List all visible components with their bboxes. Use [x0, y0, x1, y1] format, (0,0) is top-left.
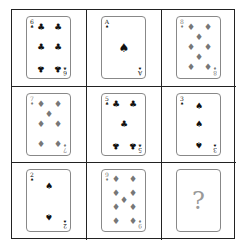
card-index-bottom: A♠ — [137, 66, 143, 76]
diamond-icon: ♦ — [137, 219, 143, 223]
diamond-icon: ♦ — [111, 217, 121, 227]
diamond-icon: ♦ — [194, 53, 204, 63]
card-index-bottom: 6♣ — [62, 66, 68, 76]
card-index-top: 9♦ — [104, 172, 110, 182]
card-index-top: 2♠ — [29, 172, 35, 182]
card-9-of-diamonds[interactable]: 9♦ ♦ ♦ ♦ ♦ ♦ ♦ ♦ ♦ ♦ 9♦ — [101, 169, 146, 232]
club-icon: ♣ — [53, 43, 63, 53]
spade-icon: ♠ — [212, 143, 218, 147]
diamond-icon: ♦ — [203, 23, 213, 33]
cell-r1c3: 8♦ ♦ ♦ ♦ ♦ ♦ ♦ ♦ ♦ 8♦ — [162, 10, 236, 87]
card-index-top: 8♦ — [179, 19, 185, 29]
card-index-bottom: 8♦ — [212, 66, 218, 76]
diamond-icon: ♦ — [179, 25, 185, 29]
club-icon: ♣ — [128, 100, 138, 110]
club-icon: ♣ — [62, 66, 68, 70]
spade-icon: ♠ — [44, 211, 54, 221]
spade-icon: ♠ — [29, 178, 35, 182]
club-icon: ♣ — [36, 43, 46, 53]
cell-r3c1: 2♠ ♠ ♠ 2♠ — [12, 163, 87, 240]
card-index-top: 6♣ — [29, 19, 35, 29]
diamond-icon: ♦ — [194, 33, 204, 43]
card-5-of-clubs[interactable]: 5♣ ♣ ♣ ♣ ♣ ♣ 5♣ — [101, 93, 146, 156]
spade-icon: ♠ — [118, 42, 130, 54]
spade-icon: ♠ — [194, 102, 204, 112]
card-ace-of-spades[interactable]: A♠ ♠ A♠ — [101, 16, 146, 79]
missing-card-placeholder[interactable]: ? — [176, 169, 221, 232]
diamond-icon: ♦ — [104, 178, 110, 182]
club-icon: ♣ — [104, 102, 110, 106]
cell-r2c2: 5♣ ♣ ♣ ♣ ♣ ♣ 5♣ — [87, 87, 162, 163]
cell-r1c2: A♠ ♠ A♠ — [87, 10, 162, 87]
spade-icon: ♠ — [179, 102, 185, 106]
cell-r2c3: 3♠ ♠ ♠ ♠ 3♠ — [162, 87, 236, 163]
card-index-bottom: 5♣ — [137, 143, 143, 153]
club-icon: ♣ — [111, 140, 121, 150]
spade-icon: ♠ — [137, 66, 143, 70]
club-icon: ♣ — [29, 25, 35, 29]
diamond-icon: ♦ — [128, 203, 138, 213]
cell-r2c1: 7♦ ♦ ♦ ♦ ♦ ♦ ♦ ♦ 7♦ — [12, 87, 87, 163]
card-3-of-spades[interactable]: 3♠ ♠ ♠ ♠ 3♠ — [176, 93, 221, 156]
diamond-icon: ♦ — [203, 43, 213, 53]
card-index-bottom: 9♦ — [137, 219, 143, 229]
diamond-icon: ♦ — [29, 102, 35, 106]
diamond-icon: ♦ — [111, 203, 121, 213]
diamond-icon: ♦ — [53, 120, 63, 130]
diamond-icon: ♦ — [53, 100, 63, 110]
club-icon: ♣ — [137, 143, 143, 147]
spade-icon: ♠ — [194, 120, 204, 130]
club-icon: ♣ — [53, 23, 63, 33]
club-icon: ♣ — [111, 100, 121, 110]
card-2-of-spades[interactable]: 2♠ ♠ ♠ 2♠ — [26, 169, 71, 232]
spade-icon: ♠ — [62, 219, 68, 223]
club-icon: ♣ — [36, 23, 46, 33]
diamond-icon: ♦ — [186, 63, 196, 73]
cell-r3c3: ? — [162, 163, 236, 240]
question-mark: ? — [177, 187, 220, 215]
diamond-icon: ♦ — [44, 110, 54, 120]
diamond-icon: ♦ — [36, 140, 46, 150]
card-index-bottom: 7♦ — [62, 143, 68, 153]
card-index-top: 7♦ — [29, 96, 35, 106]
card-index-bottom: 2♠ — [62, 219, 68, 229]
club-icon: ♣ — [36, 63, 46, 73]
card-index-top: 5♣ — [104, 96, 110, 106]
diamond-icon: ♦ — [128, 189, 138, 199]
spade-icon: ♠ — [104, 25, 110, 29]
card-index-top: A♠ — [104, 19, 110, 29]
diamond-icon: ♦ — [62, 143, 68, 147]
cell-r1c1: 6♣ ♣ ♣ ♣ ♣ ♣ ♣ 6♣ — [12, 10, 87, 87]
club-icon: ♣ — [119, 120, 129, 130]
card-6-of-clubs[interactable]: 6♣ ♣ ♣ ♣ ♣ ♣ ♣ 6♣ — [26, 16, 71, 79]
diamond-icon: ♦ — [128, 175, 138, 185]
diamond-icon: ♦ — [212, 66, 218, 70]
spade-icon: ♠ — [194, 139, 204, 149]
spade-icon: ♠ — [44, 182, 54, 192]
card-7-of-diamonds[interactable]: 7♦ ♦ ♦ ♦ ♦ ♦ ♦ ♦ 7♦ — [26, 93, 71, 156]
diamond-icon: ♦ — [36, 120, 46, 130]
card-8-of-diamonds[interactable]: 8♦ ♦ ♦ ♦ ♦ ♦ ♦ ♦ ♦ 8♦ — [176, 16, 221, 79]
card-index-bottom: 3♠ — [212, 143, 218, 153]
diamond-icon: ♦ — [111, 175, 121, 185]
card-puzzle-grid: 6♣ ♣ ♣ ♣ ♣ ♣ ♣ 6♣ A♠ ♠ A♠ 8♦ ♦ ♦ ♦ ♦ ♦ ♦… — [11, 9, 235, 239]
cell-r3c2: 9♦ ♦ ♦ ♦ ♦ ♦ ♦ ♦ ♦ ♦ 9♦ — [87, 163, 162, 240]
card-index-top: 3♠ — [179, 96, 185, 106]
